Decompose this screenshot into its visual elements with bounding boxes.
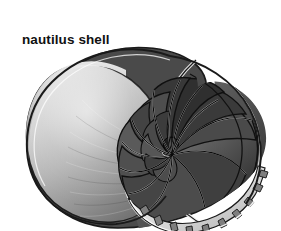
nautilus-shell-illustration [0,0,281,231]
figure-page: nautilus shell [0,0,281,231]
